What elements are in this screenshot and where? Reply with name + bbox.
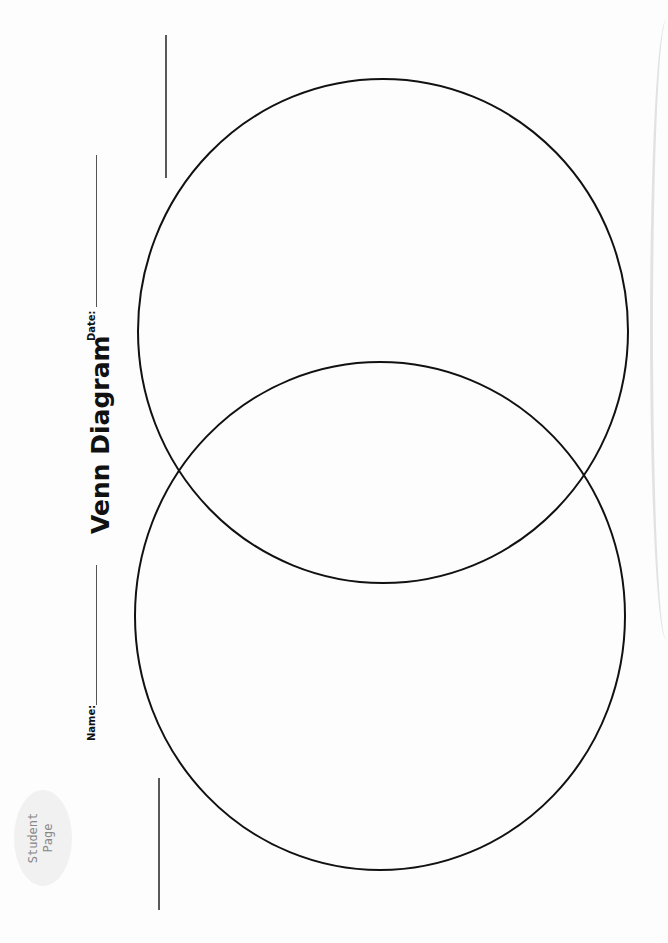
worksheet-page: Student Page Name: Venn Diagram Date: xyxy=(0,0,668,943)
venn-circle-bottom[interactable] xyxy=(135,362,625,870)
venn-circle-top[interactable] xyxy=(138,79,628,583)
venn-diagram xyxy=(0,0,668,943)
